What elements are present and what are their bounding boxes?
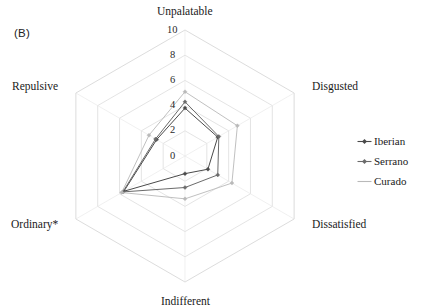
legend-label: Iberian — [374, 136, 405, 147]
tick-label-6: 6 — [170, 75, 175, 86]
legend-item-serrano[interactable]: Serrano — [357, 156, 408, 167]
axis-label-disgusted: Disgusted — [312, 81, 358, 93]
grid-spoke-5 — [76, 93, 185, 156]
legend-item-curado[interactable]: Curado — [357, 176, 408, 187]
data-point-serrano-3 — [183, 186, 187, 190]
diamond-line-marker — [357, 157, 372, 166]
axis-label-dissatisfied: Dissatisfied — [312, 219, 366, 231]
legend-item-iberian[interactable]: Iberian — [357, 136, 408, 147]
data-point-iberian-3 — [183, 172, 187, 176]
tick-label-2: 2 — [170, 125, 175, 136]
tick-label-8: 8 — [170, 50, 175, 61]
grid-spokes — [76, 30, 294, 282]
axis-label-unpalatable: Unpalatable — [157, 6, 213, 18]
legend-label: Serrano — [374, 156, 408, 167]
axis-label-ordinary: Ordinary* — [11, 219, 58, 231]
grid-spoke-2 — [185, 156, 294, 219]
axis-label-repulsive: Repulsive — [12, 81, 58, 93]
data-point-curado-3 — [183, 197, 187, 201]
series-polygon-serrano — [123, 102, 219, 192]
grid-spoke-4 — [76, 156, 185, 219]
series-polygons — [120, 90, 240, 201]
data-point-serrano-2 — [216, 173, 220, 177]
data-point-curado-2 — [230, 181, 234, 185]
line-marker — [357, 177, 372, 186]
tick-label-10: 10 — [167, 25, 178, 36]
axis-label-indifferent: Indifferent — [161, 296, 210, 307]
tick-label-0: 0 — [170, 151, 175, 162]
diamond-line-marker — [357, 137, 372, 146]
radar-chart-figure: (B) UnpalatableDisgustedDissatisfiedIndi… — [0, 0, 441, 307]
legend-label: Curado — [374, 176, 406, 187]
legend: IberianSerranoCurado — [357, 136, 408, 187]
series-curado — [120, 90, 240, 201]
tick-label-4: 4 — [170, 100, 175, 111]
